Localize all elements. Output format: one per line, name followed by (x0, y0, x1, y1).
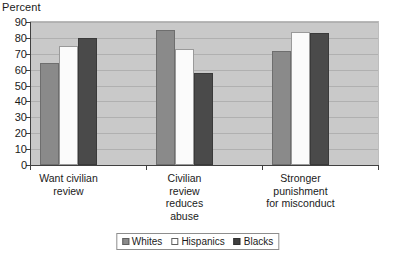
x-tick-mark (146, 165, 147, 170)
legend-swatch-icon (122, 238, 129, 245)
bar-hispanics-1 (175, 49, 194, 165)
legend-label: Blacks (244, 236, 273, 247)
y-axis-ticks: 0102030405060708090 (0, 0, 27, 254)
bar-blacks-1 (194, 73, 213, 165)
category-label-1: Civilian review reduces abuse (127, 172, 243, 222)
bar-whites-2 (272, 51, 291, 165)
legend-swatch-icon (234, 238, 241, 245)
y-tick-label: 80 (3, 33, 27, 44)
bar-hispanics-2 (291, 32, 310, 165)
legend-label: Hispanics (181, 236, 224, 247)
y-tick-label: 20 (3, 128, 27, 139)
y-tick-label: 10 (3, 144, 27, 155)
category-label-0: Want civilian review (11, 172, 127, 197)
legend-item-blacks: Blacks (234, 236, 273, 247)
bar-blacks-0 (78, 38, 97, 165)
y-tick-label: 60 (3, 65, 27, 76)
y-tick-label: 90 (3, 17, 27, 28)
plot-right-edge (378, 21, 379, 166)
bar-whites-0 (40, 63, 59, 165)
y-tick-label: 30 (3, 112, 27, 123)
legend-label: Whites (132, 236, 163, 247)
x-axis-line (30, 165, 379, 166)
y-tick-label: 70 (3, 49, 27, 60)
legend-item-hispanics: Hispanics (171, 236, 224, 247)
y-tick-label: 40 (3, 96, 27, 107)
bar-blacks-2 (310, 33, 329, 165)
legend-item-whites: Whites (122, 236, 163, 247)
chart-legend: WhitesHispanicsBlacks (116, 233, 279, 250)
gridline (30, 22, 378, 23)
x-tick-mark (378, 165, 379, 170)
category-label-2: Stronger punishment for misconduct (243, 172, 359, 210)
x-tick-mark (30, 165, 31, 170)
bar-whites-1 (156, 30, 175, 165)
x-tick-mark (262, 165, 263, 170)
plot-area (30, 22, 378, 165)
plot-top-edge (30, 21, 379, 22)
y-tick-label: 0 (3, 160, 27, 171)
y-tick-label: 50 (3, 81, 27, 92)
legend-swatch-icon (171, 238, 178, 245)
bar-hispanics-0 (59, 46, 78, 165)
y-axis-line (30, 21, 31, 166)
bar-chart: Percent 0102030405060708090 Want civilia… (0, 0, 395, 254)
